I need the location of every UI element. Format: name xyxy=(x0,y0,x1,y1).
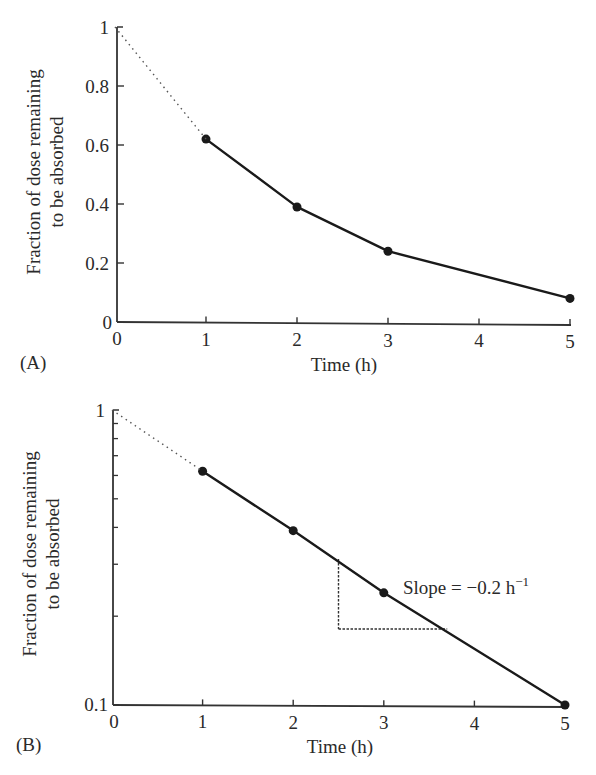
y-tick-label: 0.4 xyxy=(85,194,109,215)
y-tick-label: 0.6 xyxy=(85,135,109,156)
data-point xyxy=(566,294,575,303)
slope-annotation: Slope = −0.2 h−1 xyxy=(403,574,529,598)
x-tick-label: 3 xyxy=(383,330,393,351)
panel-b-axes: 0123450.11 xyxy=(84,400,570,734)
panel-a-series xyxy=(115,27,575,303)
panel-b-xlabel: Time (h) xyxy=(307,736,373,758)
y-tick-label: 0.1 xyxy=(84,694,108,715)
panel-a-chart: Fraction of dose remaining to be absorbe… xyxy=(20,17,575,376)
data-point xyxy=(198,467,207,476)
slope-text: Slope = −0.2 h xyxy=(403,577,516,598)
slope-superscript: −1 xyxy=(515,574,529,589)
x-tick-label: 2 xyxy=(288,712,298,733)
x-tick-label: 4 xyxy=(474,330,484,351)
x-tick-label: 0 xyxy=(109,711,119,732)
data-point xyxy=(384,247,393,256)
x-tick-label: 5 xyxy=(560,713,570,734)
x-tick-label: 5 xyxy=(565,331,575,352)
panel-b-chart: Fraction of dose remaining to be absorbe… xyxy=(16,400,570,758)
x-tick-label: 3 xyxy=(379,712,389,733)
x-axis-line xyxy=(113,705,566,707)
data-line xyxy=(206,139,570,298)
x-tick-label: 1 xyxy=(201,329,211,350)
data-point xyxy=(293,202,302,211)
y-tick-label: 0.2 xyxy=(85,253,109,274)
panel-b-label: (B) xyxy=(16,734,41,756)
panel-a-xlabel: Time (h) xyxy=(311,354,377,376)
extrapolation-dotted-line xyxy=(112,410,203,471)
panel-b-ylabel-line1: Fraction of dose remaining xyxy=(19,451,40,657)
data-point xyxy=(561,701,570,710)
x-tick-label: 1 xyxy=(198,711,208,732)
extrapolation-dotted-line xyxy=(115,27,206,139)
y-tick-label: 1 xyxy=(100,17,110,38)
figure: Fraction of dose remaining to be absorbe… xyxy=(0,0,596,775)
panel-a-ylabel-line1: Fraction of dose remaining xyxy=(23,69,44,275)
y-tick-label: 0 xyxy=(103,312,113,333)
x-tick-label: 0 xyxy=(112,328,122,349)
y-tick-label: 0.8 xyxy=(85,76,109,97)
x-tick-label: 4 xyxy=(470,713,480,734)
panel-a-label: (A) xyxy=(20,352,46,374)
panel-b-ylabel-line2: to be absorbed xyxy=(42,498,63,609)
data-point xyxy=(289,526,298,535)
panel-b-series xyxy=(112,410,570,710)
x-axis-line xyxy=(117,322,571,325)
data-point xyxy=(379,588,388,597)
x-tick-label: 2 xyxy=(292,329,302,350)
y-tick-label: 1 xyxy=(96,400,106,421)
panel-a-ylabel-line2: to be absorbed xyxy=(46,116,67,227)
panel-a-axes: 01234500.20.40.60.81 xyxy=(85,17,575,352)
